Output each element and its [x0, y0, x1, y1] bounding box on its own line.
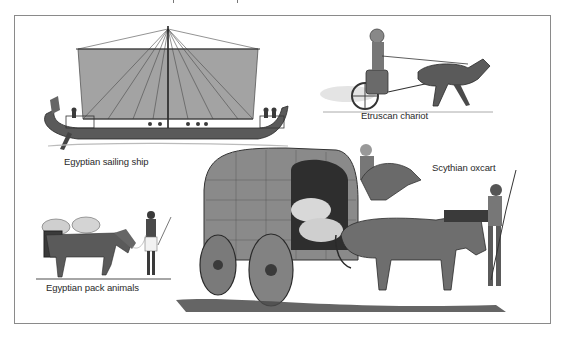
etruscan-chariot-illustration: [318, 24, 498, 116]
cropped-mark: [237, 0, 238, 3]
label-egyptian-pack-animals: Egyptian pack animals: [46, 282, 139, 293]
label-egyptian-sailing-ship: Egyptian sailing ship: [64, 156, 149, 167]
egyptian-pack-animals-illustration: [36, 205, 176, 285]
label-etruscan-chariot: Etruscan chariot: [361, 110, 428, 121]
label-scythian-oxcart: Scythian oxcart: [432, 162, 495, 173]
egyptian-sailing-ship-illustration: [38, 24, 298, 154]
cropped-top-edge: [0, 0, 568, 6]
cropped-mark: [173, 0, 174, 3]
